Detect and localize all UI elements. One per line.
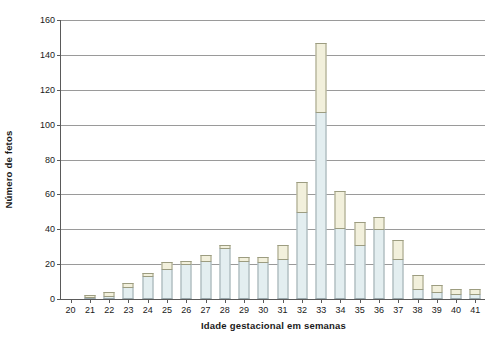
stacked-bar[interactable] — [373, 217, 384, 299]
stacked-bar[interactable] — [316, 43, 327, 299]
bar-slot — [138, 20, 157, 299]
bar-segment-upper — [373, 217, 384, 229]
bar-segment-lower — [277, 259, 288, 299]
bar-segment-lower — [393, 259, 404, 299]
stacked-bar[interactable] — [296, 182, 307, 299]
bar-segment-lower — [161, 269, 172, 299]
bar-segment-lower — [354, 245, 365, 299]
x-tick-mark — [283, 299, 284, 303]
plot-area: 020406080100120140160 202122232425262728… — [60, 20, 485, 300]
x-tick-label: 37 — [393, 305, 403, 315]
bar-segment-lower — [335, 228, 346, 299]
y-tick-label: 160 — [40, 15, 55, 25]
bar-segment-upper — [393, 240, 404, 259]
bar-segment-lower — [219, 248, 230, 299]
y-tick-label: 100 — [40, 120, 55, 130]
bar-slot — [119, 20, 138, 299]
x-tick-label: 32 — [297, 305, 307, 315]
stacked-bar[interactable] — [219, 245, 230, 299]
bar-slot — [100, 20, 119, 299]
x-tick-mark — [109, 299, 110, 303]
stacked-bar[interactable] — [431, 285, 442, 299]
stacked-bar[interactable] — [412, 275, 423, 299]
bar-segment-lower — [200, 261, 211, 299]
x-tick-mark — [206, 299, 207, 303]
bar-slot — [196, 20, 215, 299]
bar-segment-lower — [316, 112, 327, 299]
chart-figure: Número de fetos 020406080100120140160 20… — [0, 0, 495, 339]
stacked-bar[interactable] — [258, 257, 269, 299]
x-tick-mark — [90, 299, 91, 303]
bar-segment-upper — [354, 222, 365, 245]
x-tick-mark — [340, 299, 341, 303]
stacked-bar[interactable] — [200, 255, 211, 299]
stacked-bar[interactable] — [142, 273, 153, 299]
stacked-bar[interactable] — [451, 289, 462, 299]
bar-slot — [234, 20, 253, 299]
x-tick-mark — [475, 299, 476, 303]
x-tick-mark — [167, 299, 168, 303]
x-tick-mark — [244, 299, 245, 303]
x-tick-label: 24 — [143, 305, 153, 315]
x-tick-mark — [302, 299, 303, 303]
bar-segment-upper — [161, 262, 172, 269]
x-tick-mark — [437, 299, 438, 303]
bar-segment-lower — [431, 292, 442, 299]
stacked-bar[interactable] — [181, 261, 192, 299]
bar-slot — [61, 20, 80, 299]
bar-segment-upper — [431, 285, 442, 292]
x-tick-mark — [71, 299, 72, 303]
y-tick-mark — [57, 299, 61, 300]
x-tick-label: 34 — [335, 305, 345, 315]
y-tick-label: 80 — [45, 155, 55, 165]
bar-slot — [350, 20, 369, 299]
x-tick-label: 33 — [316, 305, 326, 315]
x-tick-label: 40 — [451, 305, 461, 315]
bar-slot — [466, 20, 485, 299]
bar-segment-lower — [258, 262, 269, 299]
stacked-bar[interactable] — [335, 191, 346, 299]
stacked-bar[interactable] — [161, 262, 172, 299]
bar-slot — [80, 20, 99, 299]
y-tick-label: 60 — [45, 189, 55, 199]
x-tick-label: 23 — [123, 305, 133, 315]
stacked-bar[interactable] — [123, 283, 134, 299]
x-tick-label: 21 — [85, 305, 95, 315]
x-tick-mark — [148, 299, 149, 303]
x-tick-label: 39 — [432, 305, 442, 315]
x-tick-label: 25 — [162, 305, 172, 315]
x-tick-label: 22 — [104, 305, 114, 315]
bar-segment-lower — [412, 289, 423, 299]
x-tick-mark — [128, 299, 129, 303]
bar-segment-upper — [335, 191, 346, 228]
bar-slot — [369, 20, 388, 299]
bar-slot — [446, 20, 465, 299]
bar-slot — [408, 20, 427, 299]
x-tick-mark — [398, 299, 399, 303]
x-tick-mark — [456, 299, 457, 303]
x-tick-label: 26 — [181, 305, 191, 315]
stacked-bar[interactable] — [393, 240, 404, 299]
x-tick-mark — [418, 299, 419, 303]
x-tick-label: 30 — [258, 305, 268, 315]
x-tick-label: 36 — [374, 305, 384, 315]
bar-segment-upper — [277, 245, 288, 259]
y-tick-label: 140 — [40, 50, 55, 60]
x-tick-mark — [263, 299, 264, 303]
x-tick-mark — [321, 299, 322, 303]
stacked-bar[interactable] — [277, 245, 288, 299]
bar-slot — [331, 20, 350, 299]
y-axis-title: Número de fetos — [0, 0, 16, 339]
stacked-bar[interactable] — [470, 289, 481, 299]
x-tick-label: 20 — [66, 305, 76, 315]
y-tick-label: 120 — [40, 85, 55, 95]
stacked-bar[interactable] — [354, 222, 365, 299]
y-tick-label: 20 — [45, 259, 55, 269]
bar-segment-lower — [181, 264, 192, 299]
x-tick-label: 35 — [355, 305, 365, 315]
x-tick-label: 31 — [278, 305, 288, 315]
stacked-bar[interactable] — [104, 292, 115, 299]
stacked-bar[interactable] — [239, 257, 250, 299]
x-tick-label: 41 — [470, 305, 480, 315]
bar-segment-upper — [296, 182, 307, 212]
